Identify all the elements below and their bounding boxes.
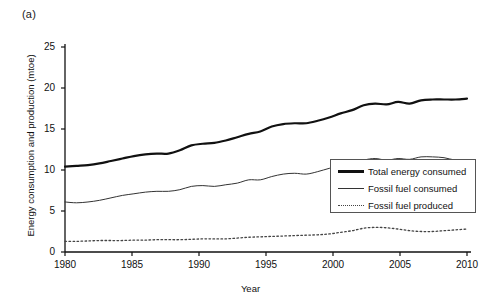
x-tick-label: 1980 bbox=[43, 260, 87, 270]
y-tick-label: 5 bbox=[29, 206, 55, 216]
legend-swatch-thin-icon bbox=[338, 188, 364, 189]
legend-item: Fossil fuel produced bbox=[331, 197, 477, 215]
series-line-1 bbox=[65, 99, 467, 167]
legend-swatch-thick-icon bbox=[338, 170, 364, 173]
legend-swatch-dotted-icon bbox=[338, 205, 364, 206]
legend-label: Fossil fuel consumed bbox=[368, 183, 457, 194]
x-tick-label: 2010 bbox=[445, 260, 489, 270]
x-tick-label: 2005 bbox=[378, 260, 422, 270]
x-tick-label: 1995 bbox=[244, 260, 288, 270]
series-line-3 bbox=[65, 227, 467, 241]
legend-label: Fossil fuel produced bbox=[368, 200, 453, 211]
y-tick-label: 10 bbox=[29, 165, 55, 175]
axes bbox=[61, 44, 471, 256]
legend-item: Total energy consumed bbox=[331, 163, 477, 181]
x-tick-label: 2000 bbox=[311, 260, 355, 270]
x-tick-label: 1985 bbox=[110, 260, 154, 270]
legend-label: Total energy consumed bbox=[368, 166, 466, 177]
y-tick-label: 25 bbox=[29, 42, 55, 52]
energy-chart-figure: (a) Energy consumption and production (m… bbox=[0, 0, 501, 307]
y-tick-label: 20 bbox=[29, 83, 55, 93]
y-tick-label: 0 bbox=[29, 247, 55, 257]
legend-item: Fossil fuel consumed bbox=[331, 180, 477, 198]
y-tick-label: 15 bbox=[29, 124, 55, 134]
chart-legend: Total energy consumedFossil fuel consume… bbox=[330, 159, 476, 213]
x-tick-label: 1990 bbox=[177, 260, 221, 270]
